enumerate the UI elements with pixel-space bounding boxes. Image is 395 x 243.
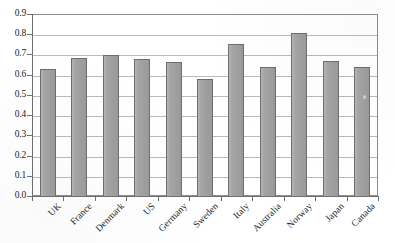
bar bbox=[228, 44, 244, 196]
gridline bbox=[33, 35, 377, 36]
x-axis-tick bbox=[284, 197, 285, 201]
y-axis-tick-label: 0.4 bbox=[0, 110, 26, 119]
y-axis-tick bbox=[27, 34, 32, 35]
x-axis-tick bbox=[126, 197, 127, 201]
x-axis-tick bbox=[158, 197, 159, 201]
y-axis-tick bbox=[27, 54, 32, 55]
y-axis-tick bbox=[27, 115, 32, 116]
y-axis-tick bbox=[27, 156, 32, 157]
bar bbox=[354, 67, 370, 196]
x-axis-tick bbox=[378, 197, 379, 201]
y-axis-tick-label: 0.7 bbox=[0, 49, 26, 58]
bar bbox=[103, 55, 119, 196]
y-axis-tick-label: 0.3 bbox=[0, 130, 26, 139]
x-axis-tick bbox=[315, 197, 316, 201]
bar bbox=[40, 69, 56, 196]
y-axis-tick-label: 0.0 bbox=[0, 191, 26, 200]
y-axis-line bbox=[32, 14, 33, 197]
x-axis-tick bbox=[252, 197, 253, 201]
x-axis-tick bbox=[347, 197, 348, 201]
bar-chart: 0.00.10.20.30.40.50.60.70.80.9 UKFranceD… bbox=[0, 0, 395, 243]
y-axis-tick bbox=[27, 135, 32, 136]
y-axis-tick-label: 0.2 bbox=[0, 151, 26, 160]
y-axis-tick-label: 0.8 bbox=[0, 29, 26, 38]
x-axis-tick bbox=[32, 197, 33, 201]
x-axis-tick bbox=[95, 197, 96, 201]
x-axis-tick bbox=[221, 197, 222, 201]
y-axis-tick-label: 0.5 bbox=[0, 90, 26, 99]
y-axis-tick bbox=[27, 14, 32, 15]
y-axis-tick-label: 0.1 bbox=[0, 171, 26, 180]
bar bbox=[291, 33, 307, 196]
y-axis-tick bbox=[27, 176, 32, 177]
x-axis-tick bbox=[189, 197, 190, 201]
gridline bbox=[33, 55, 377, 56]
y-axis-tick bbox=[27, 75, 32, 76]
y-axis-tick-label: 0.6 bbox=[0, 70, 26, 79]
bar bbox=[260, 67, 276, 196]
bar bbox=[197, 79, 213, 196]
y-axis-tick bbox=[27, 95, 32, 96]
x-axis-tick bbox=[63, 197, 64, 201]
bar bbox=[71, 58, 87, 196]
bar bbox=[134, 59, 150, 196]
y-axis-labels: 0.00.10.20.30.40.50.60.70.80.9 bbox=[0, 0, 26, 243]
y-axis-tick-label: 0.9 bbox=[0, 9, 26, 18]
bar bbox=[166, 62, 182, 196]
x-axis-line bbox=[32, 196, 379, 197]
bar bbox=[323, 61, 339, 196]
